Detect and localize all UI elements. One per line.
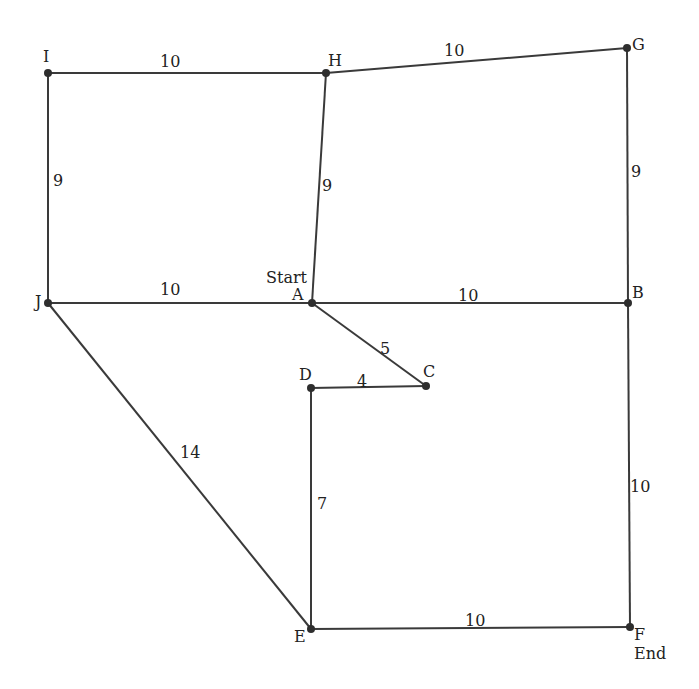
node-h: [322, 69, 330, 77]
edge-weight-label: 9: [53, 171, 63, 190]
node-label-i: I: [43, 47, 49, 66]
edge-j-e: [48, 303, 311, 629]
edge-weight-label: 7: [317, 494, 327, 513]
nodes-layer: [44, 44, 634, 633]
node-e: [307, 625, 315, 633]
edge-h-g: [326, 48, 627, 73]
edge-weight-label: 9: [631, 162, 641, 181]
node-j: [44, 299, 52, 307]
graph-canvas: 10109991010541471010AStartBCDEFEndGHIJ: [0, 0, 699, 689]
node-a: [308, 299, 316, 307]
node-f: [626, 623, 634, 631]
edge-weight-label: 9: [322, 176, 332, 195]
edge-g-b: [627, 48, 628, 303]
edge-weight-label: 4: [357, 372, 367, 391]
node-label-e: E: [294, 627, 306, 646]
edge-weight-label: 10: [160, 52, 180, 71]
node-label-h: H: [328, 51, 342, 70]
edge-a-c: [312, 303, 426, 386]
node-label-d: D: [299, 365, 312, 384]
node-i: [44, 69, 52, 77]
node-label-g: G: [632, 35, 645, 54]
edge-weight-label: 10: [160, 280, 180, 299]
edge-weight-label: 14: [180, 443, 200, 462]
node-d: [307, 384, 315, 392]
node-b: [624, 299, 632, 307]
edges-layer: [48, 48, 630, 629]
node-label-a: A: [291, 285, 304, 304]
node-label-f: F: [634, 625, 645, 644]
edge-weight-label: 10: [444, 41, 464, 60]
edge-weight-label: 10: [465, 611, 485, 630]
node-label-b: B: [632, 283, 644, 302]
edge-weight-label: 5: [380, 339, 390, 358]
node-c: [422, 382, 430, 390]
graph-diagram: 10109991010541471010AStartBCDEFEndGHIJ: [0, 0, 699, 689]
end-label: End: [634, 644, 666, 663]
edge-weight-label: 10: [458, 286, 478, 305]
labels-layer: 10109991010541471010AStartBCDEFEndGHIJ: [33, 35, 666, 663]
node-label-c: C: [423, 362, 435, 381]
edge-weight-label: 10: [630, 477, 650, 496]
node-g: [623, 44, 631, 52]
start-label: Start: [266, 268, 308, 287]
edge-b-f: [628, 303, 630, 627]
node-label-j: J: [33, 292, 41, 311]
edge-d-c: [311, 386, 426, 388]
